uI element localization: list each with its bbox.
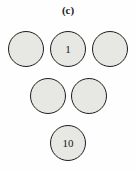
node-circle-4 xyxy=(30,78,66,114)
node-circle-2: 1 xyxy=(50,31,86,67)
node-circle-6-label: 10 xyxy=(63,137,74,148)
figure-panel-c: (c) 1 10 xyxy=(0,0,136,173)
circle-group: 1 10 xyxy=(0,0,136,173)
node-circle-2-label: 1 xyxy=(65,43,71,54)
node-circle-5 xyxy=(71,78,107,114)
node-circle-3 xyxy=(92,31,128,67)
node-circle-1 xyxy=(8,31,44,67)
node-circle-6: 10 xyxy=(50,125,86,161)
